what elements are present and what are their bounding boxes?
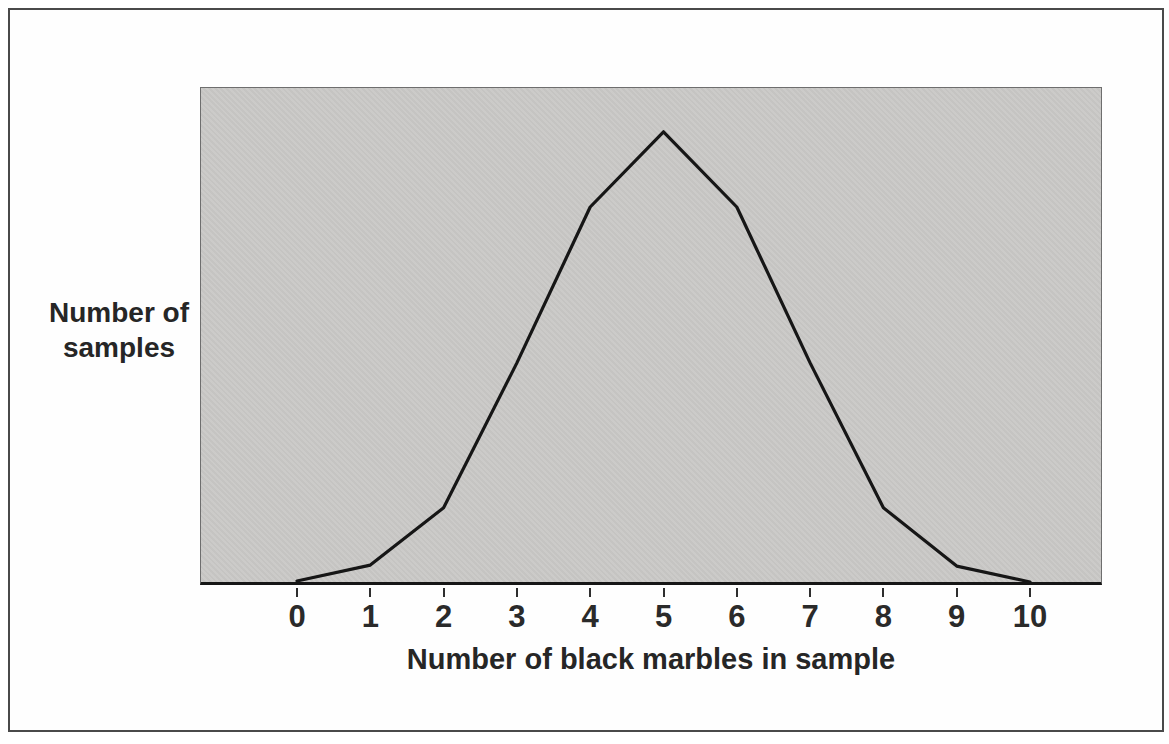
x-tick-label: 2 [435, 599, 452, 635]
x-tick-mark [956, 588, 958, 597]
x-tick-mark [1029, 588, 1031, 597]
distribution-curve [297, 132, 1030, 582]
x-tick-mark [882, 588, 884, 597]
plot-area [200, 87, 1102, 585]
y-axis-label-line1: Number of [38, 295, 200, 330]
x-tick-mark [809, 588, 811, 597]
x-axis-ticks: 012345678910 [200, 585, 1102, 645]
distribution-curve-svg [200, 87, 1102, 585]
x-tick-mark [516, 588, 518, 597]
x-tick-mark [296, 588, 298, 597]
x-tick-label: 6 [728, 599, 745, 635]
x-tick-label: 9 [948, 599, 965, 635]
x-tick-label: 8 [875, 599, 892, 635]
y-axis-label: Number of samples [38, 295, 200, 365]
y-axis-label-line2: samples [38, 330, 200, 365]
x-tick-label: 10 [1013, 599, 1047, 635]
x-axis-label: Number of black marbles in sample [200, 643, 1102, 676]
x-tick-mark [369, 588, 371, 597]
x-tick-mark [589, 588, 591, 597]
x-tick-label: 5 [655, 599, 672, 635]
x-tick-mark [736, 588, 738, 597]
x-tick-label: 1 [362, 599, 379, 635]
x-tick-label: 3 [508, 599, 525, 635]
x-tick-label: 0 [288, 599, 305, 635]
figure-frame: Number of samples 012345678910 Number of… [8, 8, 1164, 732]
x-tick-label: 7 [801, 599, 818, 635]
x-tick-label: 4 [582, 599, 599, 635]
x-tick-mark [663, 588, 665, 597]
x-tick-mark [443, 588, 445, 597]
